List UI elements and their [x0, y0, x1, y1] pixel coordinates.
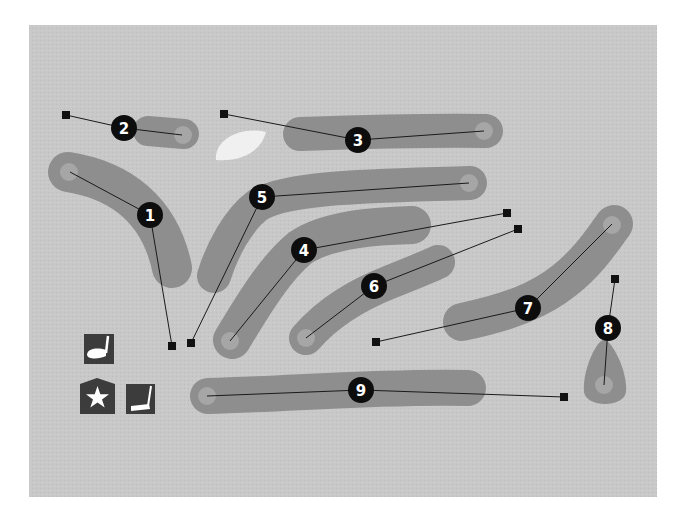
legend-clubhouse[interactable] [80, 378, 115, 414]
green-hole-1 [60, 163, 78, 181]
hole-number: 3 [353, 132, 363, 150]
green-hole-2 [174, 126, 192, 144]
hole-badge-7[interactable]: 7 [515, 295, 541, 321]
tee-hole-4[interactable] [503, 209, 511, 217]
tee-hole-8[interactable] [611, 275, 619, 283]
green-hole-7 [603, 216, 621, 234]
legend-putting-green[interactable] [126, 384, 155, 414]
tee-hole-2[interactable] [62, 111, 70, 119]
hole-number: 9 [356, 382, 366, 400]
hole-number: 8 [603, 320, 613, 338]
hole-number: 7 [523, 300, 533, 318]
tee-hole-9[interactable] [560, 393, 568, 401]
hole-number: 2 [119, 120, 129, 138]
hole-badge-6[interactable]: 6 [361, 273, 387, 299]
hole-number: 1 [145, 207, 155, 225]
legend-driving-range[interactable] [84, 334, 114, 364]
tee-hole-7[interactable] [372, 338, 380, 346]
hole-number: 6 [369, 278, 379, 296]
tee-hole-1[interactable] [168, 342, 176, 350]
hole-number: 4 [299, 242, 309, 260]
hole-badge-2[interactable]: 2 [111, 115, 137, 141]
hole-badge-8[interactable]: 8 [595, 315, 621, 341]
tee-hole-3[interactable] [220, 110, 228, 118]
tee-hole-6[interactable] [514, 225, 522, 233]
golf-course-map: 1 2 3 4 5 6 7 8 9 [29, 25, 657, 497]
hole-badge-9[interactable]: 9 [348, 377, 374, 403]
hole-badge-4[interactable]: 4 [291, 237, 317, 263]
hole-badge-1[interactable]: 1 [137, 202, 163, 228]
tee-hole-5[interactable] [187, 339, 195, 347]
hole-number: 5 [257, 189, 267, 207]
hole-badge-5[interactable]: 5 [249, 184, 275, 210]
course-svg: 1 2 3 4 5 6 7 8 9 [29, 25, 657, 497]
hole-badge-3[interactable]: 3 [345, 127, 371, 153]
